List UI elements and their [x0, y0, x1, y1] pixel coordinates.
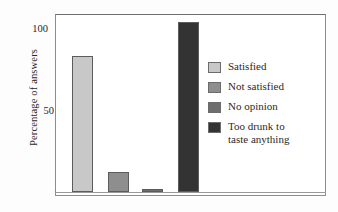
bar-not-satisfied — [108, 172, 129, 192]
legend-item-label: Too drunk to taste anything — [228, 120, 289, 145]
legend-item-label: Satisfied — [228, 60, 267, 73]
legend-item: Satisfied — [208, 60, 334, 73]
y-tick-label-50: 50 — [20, 106, 54, 117]
legend-swatch-icon — [208, 122, 221, 133]
legend-swatch-icon — [208, 62, 221, 73]
bar-no-opinion — [142, 189, 163, 192]
legend-item-label: No opinion — [228, 100, 278, 113]
bar-satisfied — [72, 56, 93, 192]
legend-item: Not satisfied — [208, 80, 334, 93]
bar-too-drunk-to-taste-anything — [178, 22, 199, 192]
legend-swatch-icon — [208, 82, 221, 93]
x-axis-baseline — [55, 192, 326, 193]
chart-legend: SatisfiedNot satisfiedNo opinionToo drun… — [208, 60, 334, 152]
legend-item: No opinion — [208, 100, 334, 113]
legend-swatch-icon — [208, 102, 221, 113]
y-tick-label-100: 100 — [14, 24, 48, 35]
legend-item-label: Not satisfied — [228, 80, 284, 93]
y-axis-title: Percentage of answers — [28, 18, 39, 178]
legend-item: Too drunk to taste anything — [208, 120, 334, 145]
bar-chart-figure: Percentage of answers 100 50 0 Satisfied… — [0, 0, 338, 212]
